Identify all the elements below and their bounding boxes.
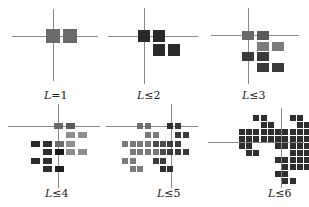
y-axis (144, 8, 145, 84)
lattice-cell (275, 143, 281, 149)
lattice-cell (66, 132, 75, 138)
lattice-cell (160, 158, 166, 164)
lattice-cell (160, 141, 166, 147)
lattice-cell (297, 122, 303, 128)
lattice-cell (160, 149, 166, 155)
lattice-cell (257, 52, 269, 61)
lattice-cell (290, 129, 296, 135)
lattice-cell (137, 141, 143, 147)
lattice-cell (153, 149, 159, 155)
lattice-cell (297, 150, 303, 156)
lattice-cell (275, 171, 281, 177)
lattice-cell (66, 141, 75, 147)
lattice-cell (167, 149, 173, 155)
lattice-cell (272, 63, 284, 72)
lattice-cell (246, 129, 252, 135)
lattice-cell (145, 123, 151, 129)
lattice-cell (145, 132, 151, 138)
lattice-cell (253, 136, 259, 142)
panel-label: L≤4 (45, 187, 69, 200)
panel-label: L≤2 (137, 89, 161, 102)
lattice-cell (130, 166, 136, 172)
lattice-cell (290, 136, 296, 142)
lattice-cell (55, 149, 64, 155)
lattice-cell (290, 143, 296, 149)
lattice-cell (175, 141, 181, 147)
lattice-cell (153, 141, 159, 147)
lattice-cell (78, 132, 87, 138)
lattice-cell (257, 31, 269, 40)
lattice-cell (66, 149, 75, 155)
label-relation: ≤3 (249, 89, 265, 102)
panel-label: L≤6 (268, 187, 292, 200)
lattice-cell (290, 178, 296, 184)
lattice-cell (257, 63, 269, 72)
lattice-cell (290, 164, 296, 170)
lattice-cell (130, 158, 136, 164)
label-relation: ≤2 (144, 89, 160, 102)
lattice-cell (46, 29, 60, 43)
lattice-cell (175, 149, 181, 155)
label-relation: =1 (51, 89, 67, 102)
lattice-cell (257, 42, 269, 51)
lattice-cell (137, 166, 143, 172)
lattice-cell (261, 115, 267, 121)
lattice-cell (239, 143, 245, 149)
lattice-cell (130, 141, 136, 147)
lattice-cell (66, 123, 75, 129)
lattice-cell (242, 31, 254, 40)
lattice-cell (246, 143, 252, 149)
lattice-cell (272, 42, 284, 51)
lattice-cell (282, 171, 288, 177)
lattice-cell (268, 122, 274, 128)
lattice-cell (304, 136, 309, 142)
lattice-cell (304, 164, 309, 170)
lattice-cell (63, 29, 77, 43)
lattice-cell (54, 123, 63, 129)
lattice-cell (239, 129, 245, 135)
lattice-cell (297, 115, 303, 121)
lattice-cell (153, 44, 165, 56)
lattice-cell (253, 150, 259, 156)
lattice-cell (137, 123, 143, 129)
lattice-cell (43, 149, 52, 155)
label-relation: ≤5 (164, 187, 180, 200)
lattice-cell (153, 30, 165, 42)
lattice-cell (78, 149, 87, 155)
lattice-cell (282, 178, 288, 184)
lattice-cell (175, 132, 181, 138)
x-axis (106, 126, 198, 127)
lattice-cell (297, 129, 303, 135)
lattice-cell (167, 141, 173, 147)
lattice-cell (268, 129, 274, 135)
lattice-cell (130, 149, 136, 155)
lattice-cell (304, 129, 309, 135)
lattice-cell (153, 158, 159, 164)
lattice-cell (297, 164, 303, 170)
lattice-cell (253, 115, 259, 121)
lattice-cell (282, 136, 288, 142)
lattice-cell (297, 136, 303, 142)
lattice-cell (242, 52, 254, 61)
lattice-cell (304, 143, 309, 149)
lattice-cell (168, 44, 180, 56)
lattice-cell (304, 157, 309, 163)
lattice-cell (167, 123, 173, 129)
lattice-cell (290, 115, 296, 121)
lattice-cell (145, 149, 151, 155)
lattice-cell (282, 129, 288, 135)
lattice-cell (153, 132, 159, 138)
panel-label: L≤5 (157, 187, 181, 200)
lattice-cell (31, 141, 40, 147)
lattice-cell (43, 141, 52, 147)
lattice-cell (137, 149, 143, 155)
lattice-cell (167, 166, 173, 172)
lattice-cell (304, 122, 309, 128)
lattice-cell (246, 136, 252, 142)
lattice-cell (261, 129, 267, 135)
lattice-cell (55, 141, 64, 147)
panel-label: L≤3 (242, 89, 266, 102)
lattice-cell (55, 166, 64, 172)
lattice-cell (138, 30, 150, 42)
lattice-cell (297, 143, 303, 149)
